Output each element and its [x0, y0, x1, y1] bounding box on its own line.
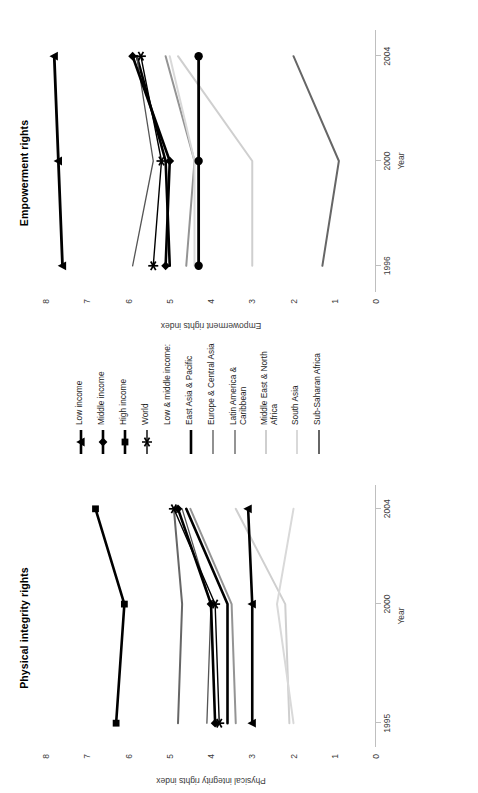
series-line [294, 56, 339, 266]
legend-swatch [259, 429, 275, 455]
y-tick-label: 5 [165, 299, 175, 304]
legend-swatch [162, 429, 178, 455]
rotated-figure-container: Physical integrity rights Physical integ… [0, 0, 478, 793]
circle-marker [194, 157, 202, 165]
series-sub-saharan-africa [174, 509, 182, 723]
legend-swatch [312, 429, 328, 455]
legend: Low incomeMiddle incomeHigh incomeWorldL… [74, 335, 374, 455]
series-low-income [194, 52, 202, 270]
y-tick-label: 2 [289, 754, 299, 759]
x-tick [376, 265, 381, 266]
circle-marker [194, 262, 202, 270]
series-low-income [243, 504, 256, 727]
legend-label: East Asia & Pacific [184, 356, 194, 429]
x-tick [376, 55, 381, 56]
series-line [178, 509, 215, 723]
y-tick-label: 6 [124, 754, 134, 759]
panel-title-empowerment: Empowerment rights [18, 8, 30, 338]
legend-item-middle-income[interactable]: Middle income [96, 372, 118, 456]
legend-item-latin-america-caribbean[interactable]: Latin America & Caribbean [228, 367, 250, 455]
legend-label: World [140, 403, 150, 429]
x-tick-label: 2004 [382, 499, 392, 518]
diamond-marker [99, 438, 108, 447]
legend-label: Low & middle income: [162, 344, 172, 429]
plot-area-empowerment: Empowerment rights index Year 0123456781… [46, 30, 376, 292]
y-tick-label: 6 [124, 299, 134, 304]
legend-item-low-middle-income[interactable]: Low & middle income: [162, 344, 184, 455]
y-tick-label: 4 [206, 754, 216, 759]
legend-swatch [228, 429, 244, 455]
y-tick-label: 7 [82, 754, 92, 759]
square-marker [92, 505, 99, 512]
series-layer [46, 485, 376, 747]
series-line [236, 509, 290, 723]
square-marker [121, 601, 128, 608]
y-tick-label: 1 [330, 754, 340, 759]
legend-swatch [140, 429, 156, 455]
y-tick-label: 4 [206, 299, 216, 304]
series-europe-central-asia [182, 509, 211, 723]
circle-marker [194, 52, 202, 60]
legend-swatch [206, 429, 222, 455]
y-tick-label: 8 [41, 754, 51, 759]
x-tick [376, 160, 381, 161]
y-tick-label: 2 [289, 299, 299, 304]
x-axis-title-physical: Year [396, 607, 406, 624]
square-marker [113, 720, 120, 727]
legend-swatch [96, 429, 112, 455]
series-middle-east-north-africa [236, 509, 290, 723]
square-marker [122, 439, 129, 446]
series-middle-income [128, 52, 174, 270]
x-axis-title-empowerment: Year [396, 152, 406, 169]
legend-item-south-asia[interactable]: South Asia [290, 385, 312, 455]
panel-empowerment-rights: Empowerment rights Empowerment rights in… [0, 8, 478, 338]
legend-label: Middle East & North Africa [259, 351, 279, 429]
y-tick-label: 7 [82, 299, 92, 304]
x-tick-label: 1995 [382, 714, 392, 733]
y-tick-label: 1 [330, 299, 340, 304]
series-line [182, 509, 211, 723]
series-line [174, 509, 182, 723]
x-tick-label: 2004 [382, 47, 392, 66]
x-tick [376, 603, 381, 604]
legend-label: Sub-Saharan Africa [312, 353, 322, 429]
diamond-marker [128, 52, 137, 61]
y-tick-label: 5 [165, 754, 175, 759]
legend-swatch [74, 429, 90, 455]
legend-label: Low income [74, 381, 84, 429]
legend-item-world[interactable]: World [140, 403, 162, 455]
legend-label: Middle income [96, 372, 106, 430]
series-high-income [49, 52, 66, 270]
plot-area-physical: Physical integrity rights index Year 012… [46, 485, 376, 747]
x-tick [376, 508, 381, 509]
series-high-income [92, 505, 128, 726]
series-world [136, 52, 167, 270]
series-layer [46, 30, 376, 292]
legend-item-low-income[interactable]: Low income [74, 381, 96, 455]
x-tick-label: 2000 [382, 152, 392, 171]
legend-label: High income [118, 379, 128, 429]
y-tick-label: 3 [247, 299, 257, 304]
legend-item-europe-central-asia[interactable]: Europe & Central Asia [206, 343, 228, 455]
x-tick [376, 722, 381, 723]
y-tick-label: 0 [371, 299, 381, 304]
series-line [96, 509, 125, 723]
legend-item-east-asia-pacific[interactable]: East Asia & Pacific [184, 356, 206, 455]
series-sub-saharan-africa [294, 56, 339, 266]
y-tick-label: 3 [247, 754, 257, 759]
y-axis-title-physical: Physical integrity rights index [156, 776, 266, 786]
panel-physical-integrity-rights: Physical integrity rights Physical integ… [0, 463, 478, 793]
legend-item-high-income[interactable]: High income [118, 379, 140, 455]
legend-swatch [184, 429, 200, 455]
series-middle-income [174, 504, 220, 727]
legend-label: Latin America & Caribbean [228, 367, 248, 429]
figure: Physical integrity rights Physical integ… [0, 0, 478, 793]
legend-label: South Asia [290, 385, 300, 429]
x-tick-label: 1996 [382, 256, 392, 275]
legend-item-sub-saharan-africa[interactable]: Sub-Saharan Africa [312, 353, 334, 455]
y-tick-label: 8 [41, 299, 51, 304]
legend-swatch [290, 429, 306, 455]
legend-item-middle-east-north-africa[interactable]: Middle East & North Africa [259, 351, 281, 455]
panel-title-physical: Physical integrity rights [18, 463, 30, 793]
x-tick-label: 2000 [382, 595, 392, 614]
